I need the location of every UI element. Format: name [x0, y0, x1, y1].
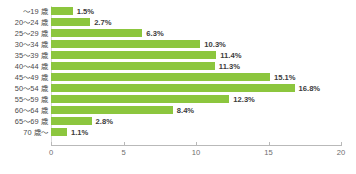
x-axis-tick-mark: [341, 142, 342, 145]
bar-row: 6.3%: [51, 28, 341, 39]
category-label: ～19 歳: [0, 6, 48, 17]
bar-value-label: 10.3%: [200, 39, 226, 50]
category-label: 55～59 歳: [0, 94, 48, 105]
x-axis-tick-label: 10: [192, 148, 200, 157]
bar-value-label: 16.8%: [295, 83, 321, 94]
bar: [51, 73, 270, 81]
bar-value-label: 12.3%: [229, 94, 255, 105]
value-axis-ticks: 05101520: [51, 145, 342, 171]
bar: [51, 29, 142, 37]
bar: [51, 84, 295, 92]
category-label: 25～29 歳: [0, 28, 48, 39]
category-label: 20～24 歳: [0, 17, 48, 28]
x-axis-tick-mark: [124, 142, 125, 145]
bar-row: 15.1%: [51, 72, 341, 83]
x-axis-tick-label: 5: [121, 148, 125, 157]
bar: [51, 117, 92, 125]
x-axis-tick-label: 15: [264, 148, 272, 157]
bar: [51, 40, 200, 48]
bar-row: 2.8%: [51, 116, 341, 127]
bar-value-label: 8.4%: [173, 105, 194, 116]
bar-value-label: 15.1%: [270, 72, 296, 83]
x-axis-tick-mark: [269, 142, 270, 145]
bar: [51, 106, 173, 114]
plot-area: 1.5%2.7%6.3%10.3%11.4%11.3%15.1%16.8%12.…: [51, 6, 341, 138]
bar-value-label: 1.1%: [67, 127, 88, 138]
bar-row: 1.5%: [51, 6, 341, 17]
bar-value-label: 6.3%: [142, 28, 163, 39]
bar-value-label: 2.8%: [92, 116, 113, 127]
bar: [51, 62, 215, 70]
bar-row: 12.3%: [51, 94, 341, 105]
bar-row: 8.4%: [51, 105, 341, 116]
bar-row: 11.4%: [51, 50, 341, 61]
bar-value-label: 2.7%: [90, 17, 111, 28]
bar: [51, 51, 216, 59]
x-axis-tick-mark: [196, 142, 197, 145]
bar-row: 2.7%: [51, 17, 341, 28]
bar-value-label: 1.5%: [73, 6, 94, 17]
category-label: 40～44 歳: [0, 61, 48, 72]
x-axis-tick-label: 20: [337, 148, 345, 157]
bar: [51, 95, 229, 103]
bar: [51, 18, 90, 26]
bar-row: 10.3%: [51, 39, 341, 50]
category-label: 50～54 歳: [0, 83, 48, 94]
category-axis-labels: ～19 歳20～24 歳25～29 歳30～34 歳35～39 歳40～44 歳…: [0, 6, 48, 138]
x-axis-tick-mark: [51, 142, 52, 145]
bar-row: 1.1%: [51, 127, 341, 138]
bar-value-label: 11.3%: [215, 61, 240, 72]
bar-chart: ～19 歳20～24 歳25～29 歳30～34 歳35～39 歳40～44 歳…: [0, 0, 356, 174]
category-label: 60～64 歳: [0, 105, 48, 116]
category-label: 35～39 歳: [0, 50, 48, 61]
x-axis-tick-label: 0: [49, 148, 53, 157]
bar: [51, 7, 73, 15]
bar-row: 11.3%: [51, 61, 341, 72]
category-label: 65～69 歳: [0, 116, 48, 127]
bar-row: 16.8%: [51, 83, 341, 94]
category-label: 30～34 歳: [0, 39, 48, 50]
category-label: 45～49 歳: [0, 72, 48, 83]
category-label: 70 歳～: [0, 127, 48, 138]
bar: [51, 128, 67, 136]
bar-value-label: 11.4%: [216, 50, 241, 61]
